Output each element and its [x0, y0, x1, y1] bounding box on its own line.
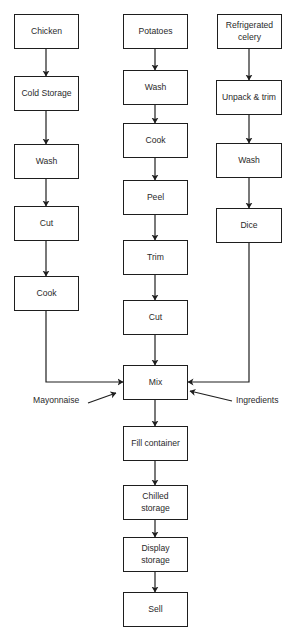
node-display-storage: Display storage: [123, 537, 188, 572]
node-cook-chicken: Cook: [14, 276, 79, 311]
node-cut-chicken: Cut: [14, 206, 79, 241]
node-cold-storage: Cold Storage: [14, 76, 79, 111]
node-sell: Sell: [123, 592, 188, 627]
node-potatoes: Potatoes: [123, 14, 188, 49]
label-ingredients: Ingredients: [236, 395, 279, 406]
node-mix: Mix: [123, 365, 188, 400]
node-wash-chicken: Wash: [14, 144, 79, 179]
node-fill-container: Fill container: [123, 426, 188, 461]
arrow-mayonnaise-to-mix: [88, 393, 116, 403]
label-mayonnaise: Mayonnaise: [33, 395, 79, 406]
node-peel: Peel: [123, 180, 188, 215]
node-chilled-storage: Chilled storage: [123, 485, 188, 520]
node-trim: Trim: [123, 240, 188, 275]
node-cook-potatoes: Cook: [123, 123, 188, 158]
arrow-cook-to-mix: [46, 310, 123, 382]
node-wash-celery: Wash: [216, 143, 282, 178]
node-chicken: Chicken: [14, 14, 79, 49]
node-cut-potatoes: Cut: [123, 300, 188, 335]
arrow-ingredients-to-mix: [190, 391, 232, 401]
flowchart: Chicken Cold Storage Wash Cut Cook Potat…: [0, 0, 294, 638]
node-wash-potatoes: Wash: [123, 70, 188, 105]
node-refrigerated-celery: Refrigerated celery: [217, 14, 282, 49]
arrow-dice-to-mix: [188, 242, 249, 382]
node-unpack-trim: Unpack & trim: [216, 80, 282, 115]
node-dice: Dice: [216, 208, 282, 243]
